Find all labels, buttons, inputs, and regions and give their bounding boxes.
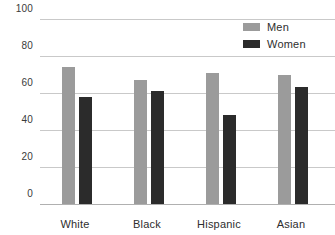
bar-black-men[interactable] <box>134 80 147 204</box>
bar-black-women[interactable] <box>151 91 164 204</box>
women-swatch-icon <box>243 40 260 48</box>
legend-item-men[interactable]: Men <box>243 18 333 35</box>
bar-hispanic-women[interactable] <box>223 115 236 204</box>
legend-label-women: Women <box>267 38 306 50</box>
x-axis-label-white: White <box>35 218 115 230</box>
y-axis-tick-100: 100 <box>3 4 33 14</box>
bar-chart: 100 80 60 40 20 0 <box>0 0 335 235</box>
legend-item-women[interactable]: Women <box>243 35 333 52</box>
men-swatch-icon <box>243 23 260 31</box>
x-axis-label-hispanic: Hispanic <box>179 218 259 230</box>
chart-legend: Men Women <box>243 18 333 52</box>
bar-white-women[interactable] <box>79 97 92 204</box>
y-axis-tick-20: 20 <box>3 152 33 162</box>
bar-hispanic-men[interactable] <box>206 73 219 204</box>
y-axis-tick-80: 80 <box>3 41 33 51</box>
bar-asian-women[interactable] <box>295 87 308 204</box>
bar-white-men[interactable] <box>62 67 75 204</box>
y-axis-tick-40: 40 <box>3 115 33 125</box>
x-axis-label-black: Black <box>107 218 187 230</box>
bar-asian-men[interactable] <box>278 75 291 205</box>
y-axis-tick-60: 60 <box>3 78 33 88</box>
y-axis-tick-0: 0 <box>3 189 33 199</box>
x-axis-label-asian: Asian <box>251 218 331 230</box>
legend-label-men: Men <box>267 21 289 33</box>
